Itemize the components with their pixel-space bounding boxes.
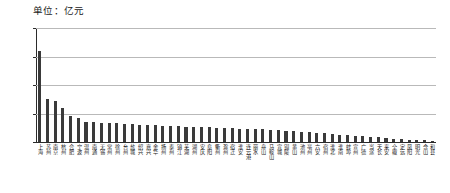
gridline-0 (36, 142, 436, 143)
y-tick-mark-0 (33, 142, 36, 143)
x-axis-label: 全椒 (391, 144, 396, 154)
bar (415, 140, 418, 142)
bar (361, 136, 364, 142)
x-axis-label: 定远 (399, 144, 404, 154)
bar (38, 51, 41, 142)
x-axis-label: 当涂 (368, 144, 373, 154)
x-axis-label: 盐城 (129, 144, 134, 154)
x-axis-label: 明光 (414, 144, 419, 154)
x-axis-label: 蚌埠 (345, 144, 350, 154)
bar (292, 131, 295, 142)
x-axis-label: 南京 (53, 144, 58, 154)
bar (61, 108, 64, 142)
x-axis-label: 扬州 (160, 144, 165, 154)
x-axis-label: 连云港 (245, 144, 250, 159)
x-axis-label: 淮南 (337, 144, 342, 154)
bar (431, 141, 434, 142)
x-axis-label: 湖州 (191, 144, 196, 154)
bar (423, 140, 426, 142)
bar (177, 126, 180, 142)
x-axis-label: 台州 (122, 144, 127, 154)
bar (331, 134, 334, 142)
unit-caption: 单位：亿元 (33, 3, 85, 17)
bar (284, 131, 287, 142)
bar (254, 129, 257, 142)
x-axis-label: 黄山 (291, 144, 296, 154)
x-axis-label: 金华 (153, 144, 158, 154)
bar (146, 125, 149, 142)
x-axis-label: 亳州 (306, 144, 311, 154)
bar (238, 129, 241, 142)
x-axis-label: 滁州 (222, 144, 227, 154)
bar (100, 123, 103, 142)
bar (184, 127, 187, 142)
x-axis-label: 天长 (376, 144, 381, 154)
bar (261, 129, 264, 142)
bar (346, 135, 349, 142)
x-axis-label: 徐州 (114, 144, 119, 154)
bar (77, 118, 80, 143)
bar (392, 139, 395, 142)
x-axis-label: 六安 (314, 144, 319, 154)
bar (192, 127, 195, 142)
x-axis-label: 南通 (91, 144, 96, 154)
x-axis-label: 池州 (299, 144, 304, 154)
bar (231, 128, 234, 142)
bar (169, 126, 172, 142)
x-axis-label: 马鞍山 (268, 144, 273, 159)
x-axis-label: 淮安 (237, 144, 242, 154)
bar (84, 122, 87, 142)
x-axis-label: 宿迁 (229, 144, 234, 154)
x-axis-label: 凤阳 (406, 144, 411, 154)
x-axis-label: 宣州 (353, 144, 358, 154)
x-axis-label: 芜湖 (183, 144, 188, 154)
bar (315, 133, 318, 142)
x-axis-label: 衢州 (214, 144, 219, 154)
bar (223, 128, 226, 142)
bar (323, 133, 326, 142)
plot-area: 05000100001500020000 (36, 28, 436, 142)
bar (308, 132, 311, 142)
x-axis-label: 宣城 (276, 144, 281, 154)
x-axis-label: 含山 (422, 144, 427, 154)
x-axis-label: 温州 (83, 144, 88, 154)
bar (369, 137, 372, 142)
bar (138, 125, 141, 142)
x-axis-label: 苏州 (45, 144, 50, 154)
bar-chart: 单位：亿元 05000100001500020000 上海苏州南京杭州合肥宁波温… (0, 0, 450, 193)
x-axis-label: 阜阳 (206, 144, 211, 154)
bar (300, 132, 303, 142)
bar (161, 126, 164, 142)
x-axis-label: 丽水 (253, 144, 258, 154)
x-axis-label: 合肥 (68, 144, 73, 154)
bar (108, 123, 111, 142)
x-axis-label: 上海 (37, 144, 42, 154)
x-axis-label: 舟山 (260, 144, 265, 154)
bar (215, 128, 218, 142)
x-axis-label: 镇江 (176, 144, 181, 154)
x-axis-label: 宁波 (76, 144, 81, 154)
bar (54, 101, 57, 142)
x-axis-label: 来安 (383, 144, 388, 154)
x-axis-label: 杭州 (60, 144, 65, 154)
bar (377, 137, 380, 142)
x-axis-label: 安庆 (199, 144, 204, 154)
bar-series (36, 28, 436, 142)
bar (46, 99, 49, 142)
x-axis-label: 广德 (360, 144, 365, 154)
bar (338, 135, 341, 142)
bar (354, 136, 357, 142)
bar (400, 139, 403, 142)
x-axis-label: 无锡 (99, 144, 104, 154)
bar (92, 122, 95, 142)
x-axis-label: 嘉兴 (145, 144, 150, 154)
bar (200, 127, 203, 142)
bar (246, 129, 249, 142)
x-axis-label: 常州 (106, 144, 111, 154)
x-axis-label: 淮北 (329, 144, 334, 154)
bar (123, 124, 126, 142)
x-axis-label: 泰州 (168, 144, 173, 154)
bar (131, 124, 134, 142)
x-axis-label: 宿州 (322, 144, 327, 154)
bar (277, 130, 280, 142)
